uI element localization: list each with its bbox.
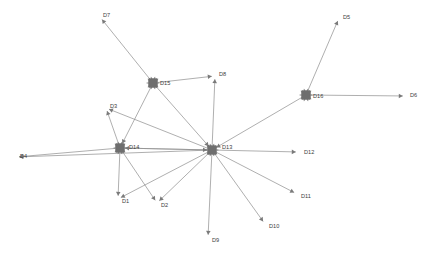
arrowhead-d13-d10 bbox=[259, 217, 263, 222]
edge-d15-d14 bbox=[122, 87, 150, 143]
arrowheads-layer bbox=[19, 19, 403, 234]
node-labels-layer: D1D2D3D4D5D6D7D8D9D10D11D12D13D14D15D16 bbox=[20, 12, 417, 243]
edge-d14-d3 bbox=[107, 111, 118, 143]
arrowhead-d13-d9 bbox=[206, 231, 211, 235]
arrowhead-d15-d8 bbox=[208, 75, 212, 80]
edge-d13-d1 bbox=[121, 152, 208, 197]
node-label-d5: D5 bbox=[343, 14, 350, 20]
node-label-d9: D9 bbox=[212, 237, 219, 243]
node-d16[interactable] bbox=[302, 91, 311, 100]
arrowhead-d16-d6 bbox=[399, 94, 403, 99]
edge-d13-d8 bbox=[212, 79, 215, 145]
node-label-d16: D16 bbox=[313, 93, 323, 99]
edge-d15-d13 bbox=[156, 87, 208, 146]
edge-d15-d7 bbox=[102, 19, 150, 79]
node-label-d2: D2 bbox=[161, 202, 168, 208]
edge-d16-d13 bbox=[216, 98, 301, 148]
edge-d14-d1 bbox=[118, 153, 120, 196]
network-graph[interactable]: D1D2D3D4D5D6D7D8D9D10D11D12D13D14D15D16 bbox=[0, 0, 430, 255]
edge-d14-d2 bbox=[123, 152, 155, 200]
node-label-d3: D3 bbox=[110, 103, 117, 109]
node-label-d7: D7 bbox=[103, 12, 110, 18]
arrowhead-d15-d7 bbox=[102, 19, 106, 24]
arrowhead-d13-d12 bbox=[292, 150, 296, 155]
edge-d16-d6 bbox=[311, 95, 403, 96]
edge-d16-d5 bbox=[308, 21, 338, 90]
node-label-d10: D10 bbox=[269, 223, 279, 229]
node-label-d11: D11 bbox=[301, 193, 311, 199]
edge-d13-d9 bbox=[208, 155, 212, 235]
node-d15[interactable] bbox=[149, 79, 158, 88]
arrowhead-d14-d1 bbox=[116, 192, 121, 196]
edge-d13-d2 bbox=[159, 153, 208, 200]
node-label-d12: D12 bbox=[304, 149, 314, 155]
arrowhead-d14-d2 bbox=[151, 196, 155, 201]
edges-layer bbox=[19, 19, 403, 234]
node-label-d14: D14 bbox=[129, 144, 139, 150]
graph-canvas: D1D2D3D4D5D6D7D8D9D10D11D12D13D14D15D16 bbox=[0, 0, 430, 255]
nodes-layer bbox=[114, 77, 313, 156]
arrowhead-d13-d8 bbox=[212, 79, 217, 83]
node-d14[interactable] bbox=[116, 144, 125, 153]
node-d13[interactable] bbox=[208, 146, 217, 155]
node-label-d1: D1 bbox=[122, 198, 129, 204]
node-label-d13: D13 bbox=[222, 144, 232, 150]
edge-d13-d4 bbox=[19, 150, 207, 157]
node-label-d4: D4 bbox=[20, 153, 27, 159]
node-label-d6: D6 bbox=[410, 92, 417, 98]
node-label-d15: D15 bbox=[160, 80, 170, 86]
node-label-d8: D8 bbox=[219, 71, 226, 77]
